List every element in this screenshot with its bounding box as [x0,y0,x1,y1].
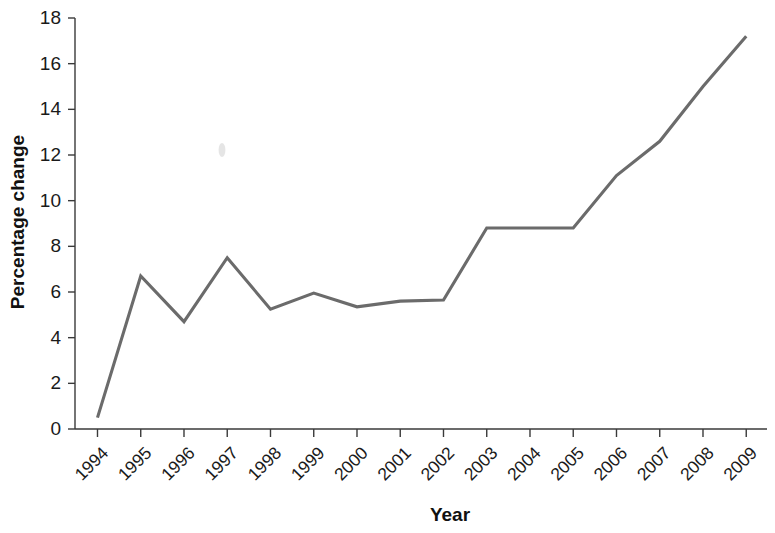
x-tick-label: 1995 [114,443,156,485]
x-tick-label: 2001 [373,443,415,485]
x-tick-label: 1999 [287,443,329,485]
y-tick-label: 18 [40,7,61,28]
x-tick-label: 2007 [633,443,675,485]
chart-figure: Percentage change Year 024681012141618 1… [0,0,775,533]
x-tick-label: 1996 [157,443,199,485]
x-tick-label: 2003 [460,443,502,485]
x-tick-label: 1994 [71,443,113,485]
x-tick-label: 1998 [244,443,286,485]
x-tick-label: 2002 [417,443,459,485]
x-tick-label: 2000 [330,443,372,485]
x-tick-label: 2006 [590,443,632,485]
x-axis-ticks: 1994199519961997199819992000200120022003… [71,429,761,484]
y-axis-title: Percentage change [7,135,28,309]
x-tick-label: 2004 [503,443,545,485]
y-axis-ticks: 024681012141618 [40,7,75,439]
y-tick-label: 10 [40,190,61,211]
x-tick-label: 2005 [546,443,588,485]
y-tick-label: 8 [50,235,61,256]
data-series-line [97,36,746,417]
y-tick-label: 12 [40,144,61,165]
x-tick-label: 1997 [200,443,242,485]
x-tick-label: 2008 [676,443,718,485]
scan-artifact-smudge [219,143,226,157]
y-tick-label: 16 [40,53,61,74]
line-chart: Percentage change Year 024681012141618 1… [0,0,775,533]
y-tick-label: 0 [50,418,61,439]
y-tick-label: 6 [50,281,61,302]
x-axis-title: Year [430,504,471,525]
y-tick-label: 2 [50,372,61,393]
y-tick-label: 4 [50,327,61,348]
x-tick-label: 2009 [719,443,761,485]
y-tick-label: 14 [40,98,62,119]
